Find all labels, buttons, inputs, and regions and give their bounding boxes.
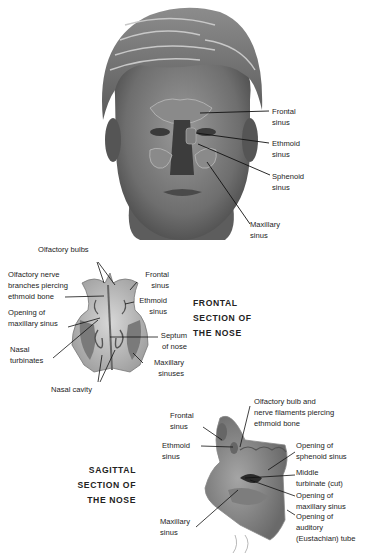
label-opening-maxillary-sinus: Opening of maxillary sinus xyxy=(8,307,58,329)
label-line: Frontal xyxy=(272,106,296,117)
label-line: Septum xyxy=(150,330,187,341)
label-line: sinuses xyxy=(146,368,184,379)
label-olfactory-nerve: Olfactory nerve branches piercing ethmoi… xyxy=(8,269,68,302)
label-line: Middle xyxy=(296,467,343,478)
label-sphenoid-sinus: Sphenoid sinus xyxy=(272,171,304,193)
label-septum-of-nose: Septum of nose xyxy=(150,330,187,352)
label-line: Maxillary xyxy=(250,219,280,230)
label-olfactory-bulbs: Olfactory bulbs xyxy=(38,244,89,255)
label-opening-sphenoid-sinus: Opening of sphenoid sinus xyxy=(296,440,347,462)
frontal-section-title: FRONTAL SECTION OF THE NOSE xyxy=(193,296,252,341)
label-nasal-turbinates: Nasal turbinates xyxy=(10,344,43,366)
label-line: ethmoid bone xyxy=(254,418,334,429)
title-line: THE NOSE xyxy=(60,493,136,508)
label-ethmoid-sinus-section: Ethmoid sinus xyxy=(131,295,167,317)
label-line: Olfactory bulbs xyxy=(38,244,89,255)
label-line: sinus xyxy=(160,527,190,538)
label-line: Ethmoid xyxy=(162,440,190,451)
label-line: Frontal xyxy=(170,410,194,421)
label-middle-turbinate: Middle turbinate (cut) xyxy=(296,467,343,489)
label-line: sinus xyxy=(250,230,280,241)
label-line: sinus xyxy=(162,451,190,462)
label-opening-maxillary-sinus-sagittal: Opening of maxillary sinus xyxy=(296,490,346,512)
label-line: Maxillary xyxy=(160,516,190,527)
label-line: Opening of xyxy=(296,511,356,522)
label-line: ethmoid bone xyxy=(8,291,68,302)
label-opening-auditory-tube: Opening of auditory (Eustachian) tube xyxy=(296,511,356,544)
label-line: sinus xyxy=(170,421,194,432)
label-sagittal-frontal-sinus: Frontal sinus xyxy=(170,410,194,432)
label-line: Ethmoid xyxy=(131,295,167,306)
label-line: Olfactory nerve xyxy=(8,269,68,280)
label-line: of nose xyxy=(150,341,187,352)
label-line: nerve filaments piercing xyxy=(254,407,334,418)
label-line: (Eustachian) tube xyxy=(296,533,356,544)
label-maxillary-sinus: Maxillary sinus xyxy=(250,219,280,241)
label-frontal-sinus-section: Frontal sinus xyxy=(137,269,169,291)
label-line: Opening of xyxy=(8,307,58,318)
label-line: sinus xyxy=(272,182,304,193)
label-line: auditory xyxy=(296,522,356,533)
title-line: SAGITTAL xyxy=(60,463,136,478)
label-line: sinus xyxy=(272,117,296,128)
sagittal-section-title: SAGITTAL SECTION OF THE NOSE xyxy=(60,463,136,508)
label-line: Sphenoid xyxy=(272,171,304,182)
title-line: FRONTAL xyxy=(193,296,252,311)
label-line: Olfactory bulb and xyxy=(254,396,334,407)
label-sagittal-maxillary-sinus: Maxillary sinus xyxy=(160,516,190,538)
label-line: sphenoid sinus xyxy=(296,451,347,462)
label-maxillary-sinuses: Maxillary sinuses xyxy=(146,357,184,379)
label-line: branches piercing xyxy=(8,280,68,291)
label-line: maxillary sinus xyxy=(8,318,58,329)
label-line: Maxillary xyxy=(146,357,184,368)
label-line: Opening of xyxy=(296,490,346,501)
label-line: sinus xyxy=(131,306,167,317)
label-olfactory-bulb-nerve: Olfactory bulb and nerve filaments pierc… xyxy=(254,396,334,429)
label-line: turbinate (cut) xyxy=(296,478,343,489)
title-line: SECTION OF xyxy=(193,311,252,326)
title-line: SECTION OF xyxy=(60,478,136,493)
label-line: turbinates xyxy=(10,355,43,366)
label-sagittal-ethmoid-sinus: Ethmoid sinus xyxy=(162,440,190,462)
label-line: Opening of xyxy=(296,440,347,451)
label-ethmoid-sinus: Ethmoid sinus xyxy=(272,138,300,160)
label-line: Nasal xyxy=(10,344,43,355)
label-line: sinus xyxy=(137,280,169,291)
label-line: Ethmoid xyxy=(272,138,300,149)
label-nasal-cavity: Nasal cavity xyxy=(51,384,92,395)
label-frontal-sinus: Frontal sinus xyxy=(272,106,296,128)
label-line: sinus xyxy=(272,149,300,160)
head-illustration xyxy=(102,8,262,240)
label-line: Frontal xyxy=(137,269,169,280)
label-line: Nasal cavity xyxy=(51,384,92,395)
title-line: THE NOSE xyxy=(193,326,252,341)
